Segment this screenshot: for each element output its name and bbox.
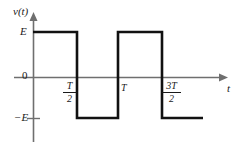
x-tick-label-half-t: T 2 xyxy=(63,81,76,104)
x-tick-three-half-t-numerator: 3T xyxy=(162,81,181,92)
x-tick-half-t-denominator: 2 xyxy=(63,94,76,105)
y-tick-label-negative-e: −E xyxy=(14,112,28,123)
x-tick-label-three-half-t: 3T 2 xyxy=(162,81,181,104)
origin-label: 0 xyxy=(22,70,28,81)
square-wave-figure: v(t) t E −E 0 T 2 T 3T 2 xyxy=(0,0,239,148)
x-tick-three-half-t-denominator: 2 xyxy=(162,94,181,105)
square-wave-trace xyxy=(33,32,203,118)
x-axis-arrowhead xyxy=(219,74,228,82)
x-tick-label-t: T xyxy=(121,82,127,93)
x-axis xyxy=(14,74,228,82)
x-axis-label: t xyxy=(227,83,230,94)
x-tick-half-t-numerator: T xyxy=(63,81,76,92)
y-axis-label: v(t) xyxy=(13,6,28,17)
y-tick-label-positive-e: E xyxy=(20,26,27,37)
plot-canvas xyxy=(0,0,239,148)
y-axis-arrowhead xyxy=(30,12,38,21)
